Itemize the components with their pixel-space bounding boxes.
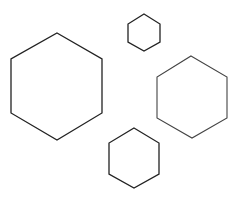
hexagon-diagram <box>0 0 238 197</box>
small-hexagon <box>128 14 160 51</box>
right-hexagon <box>157 56 227 138</box>
bottom-hexagon <box>109 128 159 188</box>
large-hexagon <box>11 33 102 140</box>
